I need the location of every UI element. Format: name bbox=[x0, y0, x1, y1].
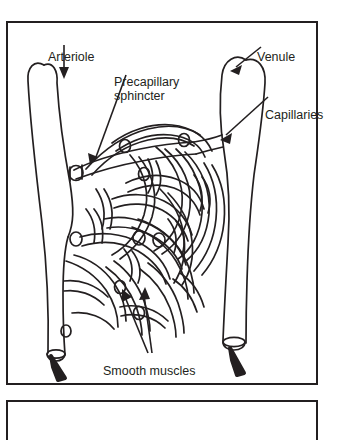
capillary-mesh-1 bbox=[96, 189, 104, 229]
venule-lumen-opening bbox=[223, 337, 245, 346]
label-precapillary-line1: Precapillary bbox=[114, 75, 179, 89]
capillary-mesh-6 bbox=[124, 249, 132, 281]
capillary-lower-cross-c bbox=[72, 313, 114, 329]
figure-border-box: Arteriole Precapillarysphincter Venule C… bbox=[6, 21, 318, 385]
label-precapillary-sphincter: Precapillarysphincter bbox=[114, 75, 179, 103]
label-smooth-muscles: Smooth muscles bbox=[103, 364, 195, 378]
arrowhead-arteriole bbox=[59, 67, 69, 79]
adjacent-figure-box bbox=[6, 400, 318, 440]
arteriole-inner-wall bbox=[44, 64, 73, 237]
capillary-mesh-6-b bbox=[132, 251, 140, 283]
sphincter-ring-5 bbox=[70, 232, 82, 246]
capillary-lower-cross-a-b bbox=[64, 291, 104, 305]
flow-arrow-venule-out bbox=[230, 348, 244, 375]
capillary-mesh-1-b bbox=[104, 189, 112, 229]
label-arteriole: Arteriole bbox=[48, 50, 95, 64]
label-capillaries: Capillaries bbox=[265, 108, 323, 122]
capillary-to-venule-top bbox=[194, 135, 222, 142]
capillary-mesh-2 bbox=[86, 209, 95, 243]
sphincter-ring-10 bbox=[61, 325, 71, 337]
label-precapillary-line2: sphincter bbox=[114, 89, 165, 103]
arteriole-outer-wall bbox=[28, 63, 48, 353]
label-venule: Venule bbox=[257, 50, 295, 64]
